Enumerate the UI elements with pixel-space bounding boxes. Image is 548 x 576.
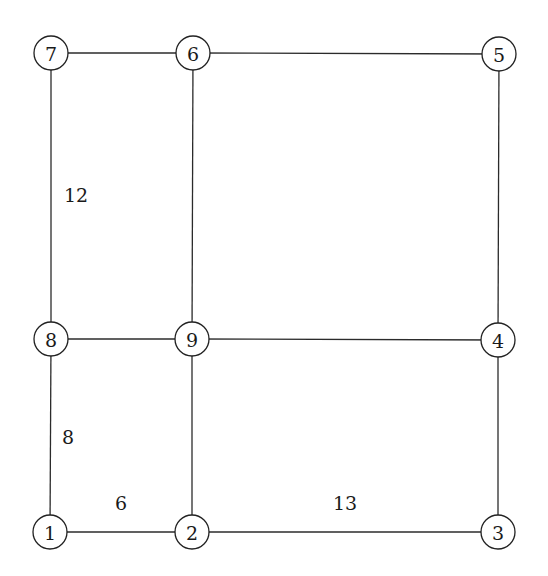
graph-diagram: 128613 123456789 <box>0 0 548 576</box>
node-7: 7 <box>34 36 68 70</box>
nodes-layer: 123456789 <box>33 36 516 549</box>
node-label: 1 <box>44 522 56 544</box>
edge-weight-label: 13 <box>333 492 357 514</box>
node-label: 2 <box>186 522 198 544</box>
node-label: 3 <box>492 522 504 544</box>
edge-weight-label: 12 <box>64 184 88 206</box>
node-label: 4 <box>492 330 504 352</box>
edge-9-4 <box>192 339 498 340</box>
node-2: 2 <box>175 515 209 549</box>
node-label: 5 <box>493 44 505 66</box>
node-label: 7 <box>45 43 57 65</box>
node-1: 1 <box>33 515 67 549</box>
edge-6-5 <box>193 53 499 54</box>
edge-5-4 <box>498 54 499 340</box>
node-9: 9 <box>175 322 209 356</box>
edge-weight-label: 8 <box>62 426 74 448</box>
edge-6-9 <box>192 53 193 339</box>
node-6: 6 <box>176 36 210 70</box>
edge-weight-label: 6 <box>115 492 127 514</box>
node-label: 8 <box>45 329 57 351</box>
node-8: 8 <box>34 322 68 356</box>
node-3: 3 <box>481 515 515 549</box>
node-4: 4 <box>481 323 515 357</box>
node-label: 6 <box>187 43 199 65</box>
node-label: 9 <box>186 329 198 351</box>
edge-labels-layer: 128613 <box>62 184 357 514</box>
edge-8-1 <box>50 339 51 532</box>
node-5: 5 <box>482 37 516 71</box>
edges-layer <box>50 53 499 532</box>
